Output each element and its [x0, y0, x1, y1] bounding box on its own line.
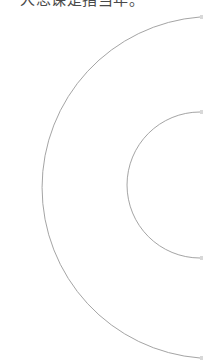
outer-arc-top-tick	[200, 15, 203, 19]
outer-arc-bottom-tick	[200, 356, 203, 360]
concentric-arcs-diagram	[0, 0, 204, 362]
inner-arc-top-tick	[200, 110, 203, 114]
inner-arc-bottom-tick	[200, 256, 203, 260]
inner-arc	[127, 112, 200, 258]
outer-arc	[42, 17, 200, 358]
